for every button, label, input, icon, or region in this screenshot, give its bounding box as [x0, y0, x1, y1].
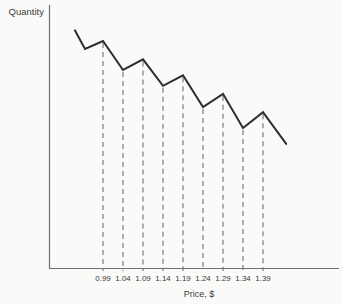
y-axis-label: Quantity [9, 6, 45, 17]
x-tick-labels: 0.991.041.091.141.191.241.291.341.39 [95, 274, 271, 283]
demand-curve [75, 30, 286, 143]
x-tick-label: 1.29 [215, 274, 231, 283]
x-tick-label: 1.39 [255, 274, 271, 283]
chart-svg: Quantity 0.991.041.091.141.191.241.291.3… [0, 0, 342, 304]
x-tick-label: 1.14 [155, 274, 171, 283]
droplines [103, 43, 263, 271]
x-tick-label: 1.19 [175, 274, 191, 283]
x-tick-label: 1.09 [135, 274, 151, 283]
x-axis-label: Price, $ [184, 289, 215, 299]
x-tick-label: 1.24 [195, 274, 211, 283]
x-tick-label: 1.04 [115, 274, 131, 283]
odd-pricing-demand-figure: Quantity 0.991.041.091.141.191.241.291.3… [0, 0, 342, 304]
x-tick-label: 1.34 [235, 274, 251, 283]
x-tick-label: 0.99 [95, 274, 111, 283]
